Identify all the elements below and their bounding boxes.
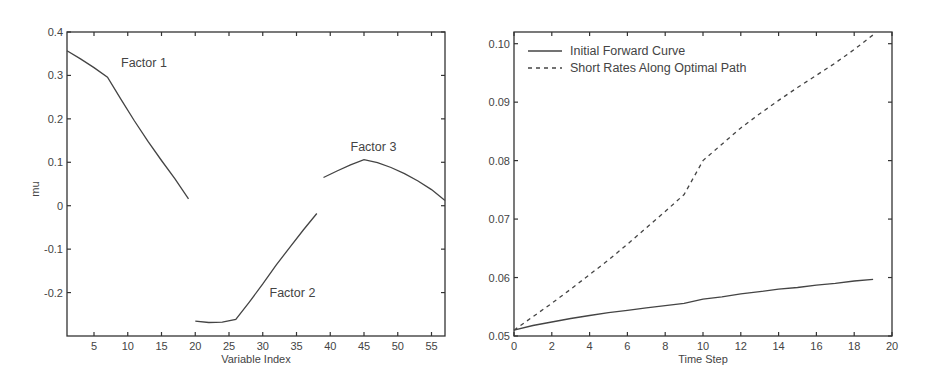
x-tick-label: 40	[324, 340, 336, 352]
x-tick-label: 6	[624, 340, 630, 352]
y-axis-title: mu	[29, 181, 41, 196]
series-initial-forward-curve	[514, 279, 873, 330]
x-tick-label: 35	[290, 340, 302, 352]
series-factor-3	[324, 160, 446, 201]
plot-frame	[514, 32, 892, 336]
annotation-label: Factor 2	[270, 286, 316, 300]
plot-frame	[67, 32, 445, 336]
x-tick-label: 10	[697, 340, 709, 352]
x-tick-label: 8	[662, 340, 668, 352]
x-tick-label: 18	[848, 340, 860, 352]
y-tick-label: -0.2	[44, 287, 63, 299]
y-tick-label: -0.1	[44, 243, 63, 255]
legend-label: Initial Forward Curve	[570, 44, 685, 58]
x-tick-label: 2	[549, 340, 555, 352]
y-tick-label: 0.3	[48, 69, 63, 81]
x-tick-label: 15	[155, 340, 167, 352]
figure: 510152025303540455055-0.2-0.100.10.20.30…	[0, 0, 929, 377]
annotation-label: Factor 3	[351, 140, 397, 154]
x-tick-label: 20	[886, 340, 898, 352]
right-chart-rates: 024681012141618200.050.060.070.080.090.1…	[489, 32, 899, 365]
left-chart-factor-loadings: 510152025303540455055-0.2-0.100.10.20.30…	[29, 26, 445, 365]
x-tick-label: 20	[189, 340, 201, 352]
x-tick-label: 10	[122, 340, 134, 352]
legend-label: Short Rates Along Optimal Path	[570, 61, 747, 75]
y-tick-label: 0.10	[489, 38, 510, 50]
series-factor-2	[195, 214, 316, 323]
x-tick-label: 12	[735, 340, 747, 352]
x-tick-label: 50	[392, 340, 404, 352]
y-tick-label: 0.07	[489, 213, 510, 225]
y-tick-label: 0.08	[489, 155, 510, 167]
x-tick-label: 0	[511, 340, 517, 352]
x-tick-label: 45	[358, 340, 370, 352]
x-tick-label: 55	[425, 340, 437, 352]
x-axis-title: Variable Index	[221, 353, 291, 365]
series-short-rates-along-optimal-path	[514, 35, 873, 330]
x-tick-label: 14	[772, 340, 784, 352]
y-tick-label: 0	[57, 200, 63, 212]
y-tick-label: 0.4	[48, 26, 63, 38]
y-tick-label: 0.2	[48, 113, 63, 125]
x-tick-label: 4	[587, 340, 593, 352]
y-tick-label: 0.09	[489, 96, 510, 108]
x-tick-label: 16	[810, 340, 822, 352]
y-tick-label: 0.06	[489, 272, 510, 284]
y-tick-label: 0.05	[489, 330, 510, 342]
series-factor-1	[67, 51, 189, 199]
y-tick-label: 0.1	[48, 156, 63, 168]
x-tick-label: 30	[257, 340, 269, 352]
x-axis-title: Time Step	[678, 353, 728, 365]
x-tick-label: 25	[223, 340, 235, 352]
x-tick-label: 5	[91, 340, 97, 352]
annotation-label: Factor 1	[121, 56, 167, 70]
